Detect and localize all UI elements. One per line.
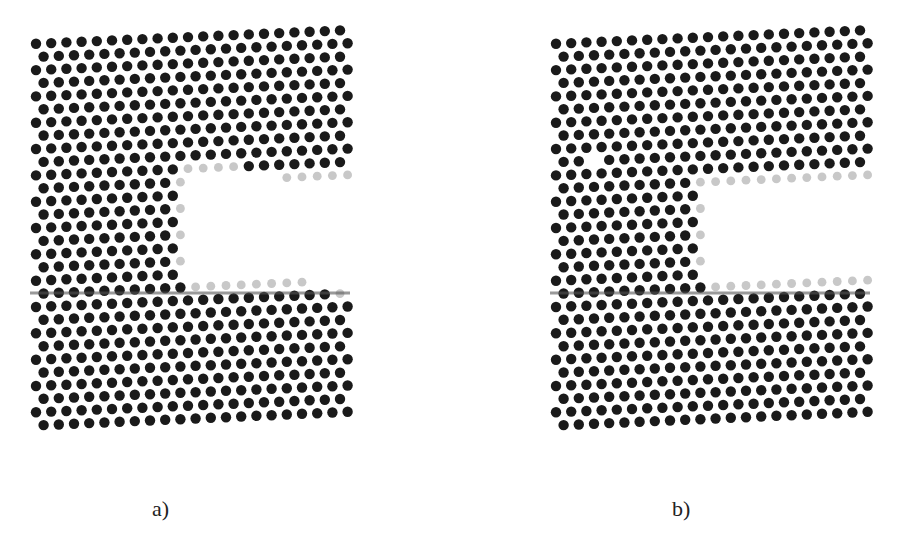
atom bbox=[665, 178, 675, 188]
atom bbox=[46, 170, 56, 180]
atom bbox=[634, 232, 644, 242]
atom bbox=[297, 409, 307, 419]
atom bbox=[266, 357, 276, 367]
atom bbox=[627, 325, 637, 335]
atom bbox=[304, 395, 314, 405]
atom bbox=[688, 164, 698, 174]
atom bbox=[297, 93, 307, 103]
atom bbox=[54, 419, 64, 429]
atom bbox=[756, 148, 766, 158]
atom bbox=[634, 259, 644, 269]
atom bbox=[335, 394, 345, 404]
atom bbox=[604, 234, 614, 244]
atom bbox=[92, 299, 102, 309]
atom bbox=[54, 314, 64, 324]
atom bbox=[114, 311, 124, 321]
surface-atom bbox=[298, 172, 307, 181]
atom bbox=[297, 330, 307, 340]
atom bbox=[764, 161, 774, 171]
lattice-diagram-b bbox=[455, 0, 911, 480]
atom bbox=[551, 197, 561, 207]
atom bbox=[786, 305, 796, 315]
atom bbox=[802, 67, 812, 77]
atom bbox=[92, 220, 102, 230]
atom bbox=[551, 302, 561, 312]
atom bbox=[198, 84, 208, 94]
atom bbox=[61, 37, 71, 47]
atom bbox=[832, 408, 842, 418]
atom bbox=[764, 108, 774, 118]
atom bbox=[92, 36, 102, 46]
atom bbox=[824, 158, 834, 168]
atom bbox=[688, 33, 698, 43]
atom bbox=[619, 417, 629, 427]
atom bbox=[130, 47, 140, 57]
atom bbox=[92, 378, 102, 388]
atom bbox=[289, 396, 299, 406]
atom bbox=[61, 327, 71, 337]
atom bbox=[282, 330, 292, 340]
atom bbox=[114, 153, 124, 163]
atom bbox=[741, 412, 751, 422]
atom bbox=[657, 166, 667, 176]
atom bbox=[168, 59, 178, 69]
atom bbox=[99, 154, 109, 164]
atom bbox=[259, 55, 269, 65]
atom bbox=[809, 396, 819, 406]
atom bbox=[665, 126, 675, 136]
atom bbox=[175, 98, 185, 108]
atom bbox=[266, 94, 276, 104]
atom bbox=[847, 381, 857, 391]
atom bbox=[665, 47, 675, 57]
atom bbox=[198, 321, 208, 331]
atom bbox=[733, 373, 743, 383]
atom bbox=[718, 163, 728, 173]
atom bbox=[274, 318, 284, 328]
atom bbox=[304, 369, 314, 379]
atom bbox=[304, 290, 314, 300]
atom bbox=[145, 205, 155, 215]
atom bbox=[69, 76, 79, 86]
atom bbox=[847, 144, 857, 154]
atom bbox=[84, 260, 94, 270]
atom bbox=[266, 68, 276, 78]
atom bbox=[695, 72, 705, 82]
atom bbox=[688, 322, 698, 332]
atom bbox=[642, 166, 652, 176]
atom bbox=[213, 347, 223, 357]
atom bbox=[228, 320, 238, 330]
atom bbox=[726, 123, 736, 133]
atom bbox=[152, 112, 162, 122]
atom bbox=[38, 51, 48, 61]
atom bbox=[566, 91, 576, 101]
atom bbox=[680, 99, 690, 109]
atom bbox=[221, 43, 231, 53]
atom bbox=[213, 110, 223, 120]
atom bbox=[574, 77, 584, 87]
atom bbox=[672, 376, 682, 386]
atom bbox=[99, 365, 109, 375]
atom bbox=[236, 95, 246, 105]
atom bbox=[558, 157, 568, 167]
atom bbox=[596, 379, 606, 389]
atom bbox=[244, 161, 254, 171]
surface-atom bbox=[214, 163, 223, 172]
atom bbox=[84, 234, 94, 244]
atom bbox=[76, 168, 86, 178]
atom bbox=[726, 413, 736, 423]
atom bbox=[574, 103, 584, 113]
atom bbox=[183, 295, 193, 305]
atom bbox=[551, 65, 561, 75]
atom bbox=[38, 236, 48, 246]
atom bbox=[274, 133, 284, 143]
atom bbox=[274, 344, 284, 354]
atom bbox=[786, 331, 796, 341]
surface-atom bbox=[343, 170, 352, 179]
atom bbox=[213, 294, 223, 304]
atom bbox=[817, 40, 827, 50]
atom bbox=[342, 91, 352, 101]
atom bbox=[183, 58, 193, 68]
atom bbox=[92, 89, 102, 99]
atom bbox=[847, 328, 857, 338]
atom bbox=[703, 295, 713, 305]
